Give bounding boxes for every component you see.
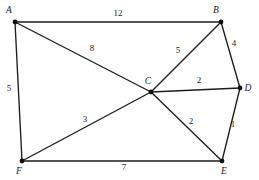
edge-weight-d-e: 1 (231, 119, 236, 129)
node-label-d: D (244, 83, 252, 93)
edge-weight-c-e: 2 (189, 116, 194, 126)
edge-weight-c-f: 3 (83, 114, 88, 124)
edge-weight-c-d: 2 (197, 75, 202, 85)
node-label-b: B (213, 5, 219, 15)
node-label-f: F (15, 166, 22, 176)
node-a[interactable] (13, 20, 18, 25)
edge-weight-f-e: 7 (122, 162, 127, 172)
node-d[interactable] (238, 86, 243, 91)
node-label-c: C (145, 76, 152, 86)
edge-weight-a-c: 8 (90, 43, 95, 53)
edge-weight-b-c: 5 (176, 45, 181, 55)
node-c[interactable] (149, 90, 154, 95)
edge-weight-a-f: 5 (7, 83, 12, 93)
node-f[interactable] (20, 159, 25, 164)
node-label-a: A (5, 5, 12, 15)
node-b[interactable] (219, 20, 224, 25)
node-label-e: E (220, 166, 227, 176)
edge-weight-a-b: 12 (114, 8, 123, 18)
graph-figure: 12855422317 ABCDEF (0, 0, 259, 180)
node-e[interactable] (220, 159, 225, 164)
figure-background (0, 0, 259, 180)
edge-weight-b-d: 4 (232, 38, 237, 48)
